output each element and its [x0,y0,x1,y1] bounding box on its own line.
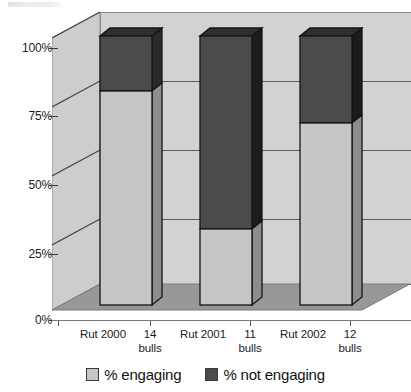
legend-label-engaging: % engaging [104,367,181,382]
bar-1-side-engaging [152,83,162,305]
x-label-14-bulls: bulls [124,342,176,355]
bar-2-side-engaging [252,221,262,305]
y-tick-label-75: 75% [6,110,52,122]
legend-label-not-engaging: % not engaging [223,367,324,382]
chart-canvas: 100% 75% 50% 25% 0% Rut 2000 14 bulls Ru… [0,0,411,392]
x-tick-mark-3 [250,321,251,326]
bar-1-front-not-engaging [100,36,152,91]
y-tick-mark-50 [49,185,58,186]
bar-2-front-engaging [200,229,252,305]
y-tick-label-25: 25% [6,248,52,260]
x-tick-mark-1 [58,321,59,326]
chart-legend: % engaging % not engaging [0,362,411,386]
bar-1-front-engaging [100,91,152,305]
bar-3-front-engaging [300,123,352,305]
y-tick-label-50: 50% [6,179,52,191]
x-axis-line [52,320,411,321]
bar-3-side-engaging [352,115,362,305]
x-tick-mark-2 [150,321,151,326]
bar-group-rut-2001[interactable] [192,10,272,320]
x-label-12-bulls: bulls [324,342,376,355]
dark-gray-swatch-icon [205,368,218,381]
bar-1-side-not-engaging [152,28,162,91]
y-tick-mark-75 [49,116,58,117]
legend-item-engaging[interactable]: % engaging [86,367,181,382]
plot-area [52,10,411,330]
bar-group-rut-2000[interactable] [92,10,172,320]
y-tick-mark-100 [49,48,58,49]
y-tick-label-100: 100% [6,42,52,54]
x-tick-mark-4 [350,321,351,326]
bar-3-front-not-engaging [300,36,352,123]
bar-3-side-not-engaging [352,28,362,123]
bar-group-rut-2002[interactable] [292,10,372,320]
bar-2-side-not-engaging [252,28,262,229]
light-gray-swatch-icon [86,368,99,381]
x-axis: Rut 2000 14 bulls Rut 2001 11 bulls Rut … [0,320,411,362]
x-label-12: 12 [324,328,376,341]
legend-item-not-engaging[interactable]: % not engaging [205,367,324,382]
x-label-11-bulls: bulls [224,342,276,355]
y-tick-mark-25 [49,254,58,255]
bar-2-front-not-engaging [200,36,252,229]
